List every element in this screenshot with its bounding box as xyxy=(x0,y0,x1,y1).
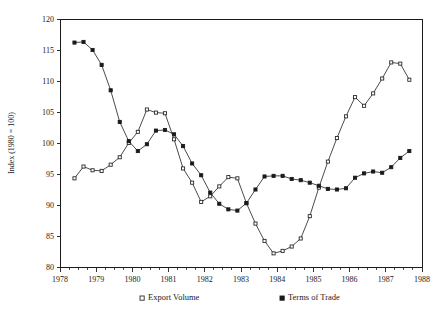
x-tick-label: 1978 xyxy=(52,275,68,284)
legend-item-2: Terms of Trade xyxy=(280,292,340,302)
x-tick-label: 1983 xyxy=(233,275,249,284)
data-point-marker xyxy=(363,104,366,107)
data-point-marker xyxy=(344,187,347,190)
y-axis-title-text: Index (1980 = 100) xyxy=(7,112,16,174)
data-point-marker xyxy=(209,191,212,194)
data-point-marker xyxy=(381,171,384,174)
series-line xyxy=(74,42,409,211)
data-point-marker xyxy=(127,140,130,143)
data-point-marker xyxy=(109,163,112,166)
data-point-marker xyxy=(335,136,338,139)
data-point-marker xyxy=(182,167,185,170)
data-point-marker xyxy=(254,188,257,191)
data-point-marker xyxy=(191,181,194,184)
y-tick-label: 85 xyxy=(46,232,54,241)
data-point-marker xyxy=(163,112,166,115)
data-point-marker xyxy=(372,170,375,173)
data-point-marker xyxy=(308,181,311,184)
chart-container: 80859095100105110115120 1978197919801981… xyxy=(0,0,439,321)
legend-item-1: Export Volume xyxy=(140,292,200,302)
x-tick-label: 1987 xyxy=(378,275,394,284)
data-point-marker xyxy=(408,78,411,81)
data-point-marker xyxy=(317,184,320,187)
x-tick-label: 1984 xyxy=(269,275,285,284)
data-point-marker xyxy=(344,115,347,118)
data-point-marker xyxy=(399,62,402,65)
y-tick-label: 120 xyxy=(42,15,54,24)
data-point-marker xyxy=(272,174,275,177)
data-point-marker xyxy=(136,150,139,153)
legend-marker xyxy=(280,296,284,300)
data-point-marker xyxy=(82,40,85,43)
data-point-marker xyxy=(118,120,121,123)
data-point-marker xyxy=(200,174,203,177)
data-point-marker xyxy=(408,150,411,153)
series-line xyxy=(74,62,409,253)
x-tick-label: 1979 xyxy=(88,275,104,284)
chart-legend: Export VolumeTerms of Trade xyxy=(140,292,340,302)
line-chart: 80859095100105110115120 1978197919801981… xyxy=(0,0,439,321)
data-point-marker xyxy=(290,245,293,248)
legend-label: Export Volume xyxy=(148,292,200,302)
data-point-marker xyxy=(163,128,166,131)
data-point-marker xyxy=(381,77,384,80)
data-point-marker xyxy=(91,48,94,51)
plot-border xyxy=(60,19,422,267)
data-point-marker xyxy=(218,185,221,188)
data-point-marker xyxy=(145,143,148,146)
data-point-marker xyxy=(281,174,284,177)
data-point-marker xyxy=(136,130,139,133)
legend-marker xyxy=(140,296,144,300)
y-tick-label: 95 xyxy=(46,170,54,179)
data-point-marker xyxy=(100,63,103,66)
data-point-marker xyxy=(326,187,329,190)
data-point-marker xyxy=(281,249,284,252)
data-point-marker xyxy=(326,160,329,163)
y-axis-title: Index (1980 = 100) xyxy=(7,112,16,174)
legend-label: Terms of Trade xyxy=(288,292,340,302)
data-point-marker xyxy=(73,41,76,44)
data-point-marker xyxy=(263,175,266,178)
data-point-marker xyxy=(118,156,121,159)
data-series-group xyxy=(73,40,411,255)
data-point-marker xyxy=(100,169,103,172)
data-point-marker xyxy=(390,166,393,169)
data-point-marker xyxy=(209,195,212,198)
y-tick-label: 80 xyxy=(46,263,54,272)
data-point-marker xyxy=(145,108,148,111)
data-point-marker xyxy=(399,156,402,159)
data-point-marker xyxy=(272,252,275,255)
data-point-marker xyxy=(353,176,356,179)
y-axis: 80859095100105110115120 xyxy=(42,15,60,272)
data-point-marker xyxy=(363,172,366,175)
data-point-marker xyxy=(154,129,157,132)
data-point-marker xyxy=(290,177,293,180)
x-tick-label: 1980 xyxy=(124,275,140,284)
data-point-marker xyxy=(154,111,157,114)
x-tick-label: 1981 xyxy=(161,275,177,284)
data-point-marker xyxy=(263,239,266,242)
data-point-marker xyxy=(227,176,230,179)
y-tick-label: 115 xyxy=(42,46,54,55)
x-tick-label: 1982 xyxy=(197,275,213,284)
data-point-marker xyxy=(172,133,175,136)
data-point-marker xyxy=(390,61,393,64)
series-1 xyxy=(73,61,411,255)
data-point-marker xyxy=(191,162,194,165)
data-point-marker xyxy=(308,215,311,218)
data-point-marker xyxy=(236,209,239,212)
data-point-marker xyxy=(299,179,302,182)
data-point-marker xyxy=(73,177,76,180)
data-point-marker xyxy=(335,188,338,191)
data-point-marker xyxy=(91,169,94,172)
y-tick-label: 100 xyxy=(42,139,54,148)
data-point-marker xyxy=(245,202,248,205)
data-point-marker xyxy=(236,177,239,180)
data-point-marker xyxy=(109,89,112,92)
data-point-marker xyxy=(227,208,230,211)
y-tick-label: 105 xyxy=(42,108,54,117)
data-point-marker xyxy=(218,202,221,205)
series-2 xyxy=(73,40,411,212)
data-point-marker xyxy=(254,222,257,225)
x-tick-label: 1985 xyxy=(305,275,321,284)
